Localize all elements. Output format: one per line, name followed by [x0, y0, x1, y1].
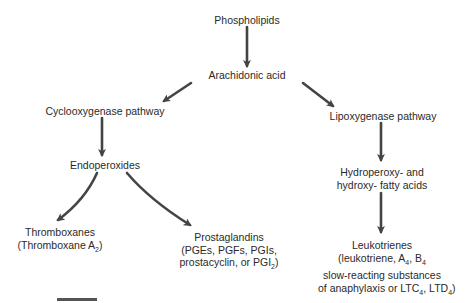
node-label-line: prostacyclin, or PGI2) [166, 256, 292, 274]
node-prostaglandins: Prostaglandins (PGEs, PGFs, PGIs, prosta… [166, 231, 292, 274]
node-label-line: (Thromboxane A2) [10, 239, 110, 257]
node-label: Cyclooxygenase pathway [30, 105, 180, 118]
node-endoperoxides: Endoperoxides [55, 159, 155, 172]
node-label-line: Thromboxanes [10, 226, 110, 239]
decorative-bar [57, 298, 97, 301]
text: , LTD [423, 282, 448, 294]
text: , B [409, 252, 422, 264]
node-label-line: of anaphylaxis or LTC4, LTD4) [318, 282, 446, 300]
node-arachidonic-acid: Arachidonic acid [187, 69, 307, 82]
text: (Thromboxane A [17, 239, 95, 251]
node-hydroperoxy-fatty-acids: Hydroperoxy- and hydroxy- fatty acids [326, 166, 438, 191]
arrow-arachidonic-to-lox [303, 83, 333, 106]
node-label-line: Hydroperoxy- and [326, 166, 438, 179]
node-cyclooxygenase-pathway: Cyclooxygenase pathway [30, 105, 180, 118]
node-label: Endoperoxides [55, 159, 155, 172]
arrow-endoperoxides-to-prostaglandins [127, 173, 190, 225]
node-label-line: Prostaglandins [166, 231, 292, 244]
text: prostacyclin, or PGI [179, 256, 271, 268]
node-thromboxanes: Thromboxanes (Thromboxane A2) [10, 226, 110, 256]
node-label: Lipoxygenase pathway [318, 110, 448, 123]
text: ) [99, 239, 103, 251]
subscript: 4 [422, 259, 426, 266]
node-label: Arachidonic acid [187, 69, 307, 82]
node-label-line: (PGEs, PGFs, PGIs, [166, 244, 292, 257]
node-phospholipids: Phospholipids [197, 14, 297, 27]
node-label-line: (leukotriene, A4, B4 [318, 252, 446, 270]
node-label: Phospholipids [197, 14, 297, 27]
text: (leukotriene, A [338, 252, 405, 264]
text: ) [452, 282, 456, 294]
text: of anaphylaxis or LTC [318, 282, 419, 294]
node-leukotrienes: Leukotrienes (leukotriene, A4, B4 slow-r… [318, 239, 446, 299]
node-label-line: hydroxy- fatty acids [326, 179, 438, 192]
text: ) [275, 256, 279, 268]
node-label-line: slow-reacting substances [318, 269, 446, 282]
arrow-endoperoxides-to-thromboxanes [58, 173, 97, 220]
node-label-line: Leukotrienes [318, 239, 446, 252]
arrow-arachidonic-to-cox [164, 83, 191, 101]
node-lipoxygenase-pathway: Lipoxygenase pathway [318, 110, 448, 123]
